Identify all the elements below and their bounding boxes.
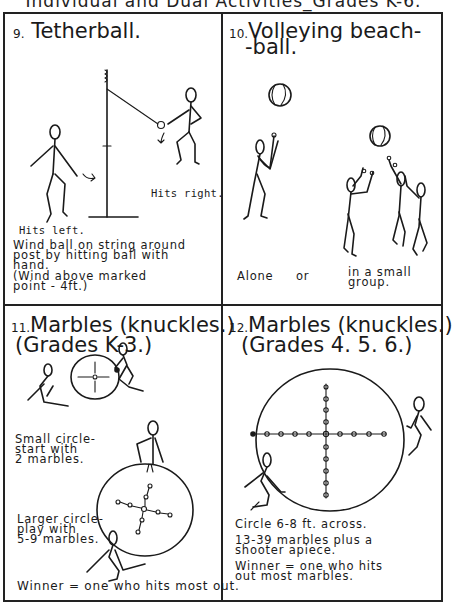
- label-small-circle: 2 marbles.: [15, 454, 84, 465]
- panel-marbles-k3: 11.Marbles (knuckles.) (Grades K-3.): [5, 306, 221, 599]
- label-group-line-2: group.: [348, 277, 390, 288]
- label-hits-left: Hits left.: [19, 225, 85, 235]
- label-alone: Alone: [237, 271, 273, 282]
- label-hits-right: Hits right.: [151, 188, 224, 198]
- note-circle-size: Circle 6-8 ft. across.: [235, 519, 367, 530]
- label-or: or: [296, 271, 309, 282]
- panel-marbles-4-6: 12.Marbles (knuckles.) (Grades 4. 5. 6.): [223, 306, 441, 599]
- page-header-title: Individual and Dual Activities_Grades K-…: [0, 0, 447, 11]
- winner-footer: Winner = one who hits most out.: [17, 581, 240, 592]
- panel-tetherball: 9. Tetherball. Hits right. Hits left. Wi…: [5, 14, 221, 304]
- label-larger-circle: 5-9 marbles.: [17, 534, 99, 545]
- panel-volleying-beachball: 10.Volleying beach- -ball.: [223, 14, 441, 304]
- note-marble-count: shooter apiece.: [235, 545, 336, 556]
- note-winner: out most marbles.: [235, 571, 354, 582]
- description-line: point - 4ft.): [13, 281, 88, 292]
- volleyball-illustration: [223, 14, 441, 304]
